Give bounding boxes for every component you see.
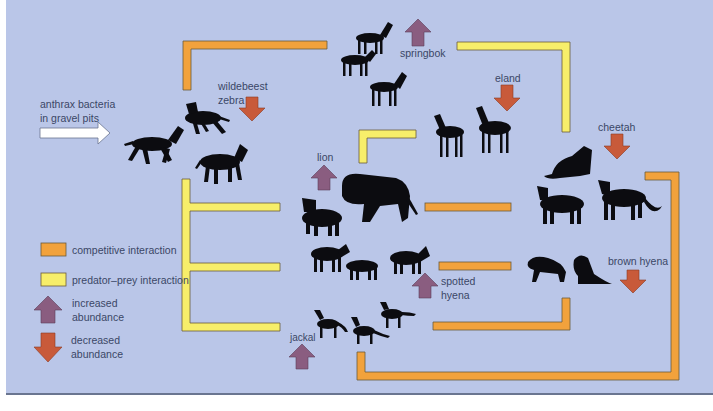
legend-decreased-line2: abundance <box>71 348 123 361</box>
eland-silhouettes-icon <box>434 106 511 157</box>
legend-increased-line1: increased <box>72 297 118 310</box>
spotted-hyena-label-line2: hyena <box>441 289 470 302</box>
lion-label: lion <box>317 151 333 164</box>
legend-increase-arrow-icon <box>34 296 62 323</box>
jackal-increase-arrow-icon <box>289 344 315 369</box>
cheetah-silhouettes-icon <box>537 146 662 224</box>
springbok-label: springbok <box>400 47 446 60</box>
predator-prey-bar-e-shape <box>182 179 280 331</box>
cheetah-decrease-arrow-icon <box>604 134 630 159</box>
spotted-hyena-increase-arrow-icon <box>412 273 438 298</box>
wildebeest-label: wildebeest <box>218 80 268 93</box>
legend-competitive-swatch <box>41 243 66 256</box>
legend-predator-prey-label: predator–prey interaction <box>72 274 189 287</box>
cheetah-label: cheetah <box>598 121 635 134</box>
brown-hyena-silhouettes-icon <box>528 255 612 284</box>
legend-predator-prey-swatch <box>41 273 66 286</box>
zebra-label: zebra <box>218 94 244 107</box>
eland-decrease-arrow-icon <box>494 85 520 111</box>
zebra-silhouettes-icon <box>124 102 248 184</box>
predator-prey-bar-top-right <box>457 42 570 132</box>
brown-hyena-decrease-arrow-icon <box>620 270 646 293</box>
spotted-hyena-silhouettes-icon <box>311 244 430 280</box>
jackal-label: jackal <box>290 331 316 344</box>
anthrax-arrow-icon <box>40 122 110 144</box>
jackal-silhouettes-icon <box>314 302 416 344</box>
legend-decrease-arrow-icon <box>34 333 62 362</box>
lion-increase-arrow-icon <box>311 165 337 190</box>
legend-competitive-label: competitive interaction <box>72 244 176 257</box>
eland-label: eland <box>495 72 521 85</box>
predator-prey-bar-lion-eland <box>359 130 416 163</box>
anthrax-label-line2: in gravel pits <box>40 112 99 125</box>
anthrax-label-line1: anthrax bacteria <box>40 98 115 111</box>
competitive-bar-hyenas <box>439 262 511 270</box>
legend-increased-line2: abundance <box>72 311 124 324</box>
legend-decreased-line1: decreased <box>71 334 120 347</box>
competitive-bar-lion-cheetah <box>425 203 511 211</box>
competitive-bar-jackal-brown-hyena <box>433 298 570 330</box>
spotted-hyena-label-line1: spotted <box>441 275 475 288</box>
brown-hyena-label: brown hyena <box>608 255 668 268</box>
springbok-increase-arrow-icon <box>405 19 431 46</box>
springbok-silhouettes-icon <box>341 22 407 106</box>
